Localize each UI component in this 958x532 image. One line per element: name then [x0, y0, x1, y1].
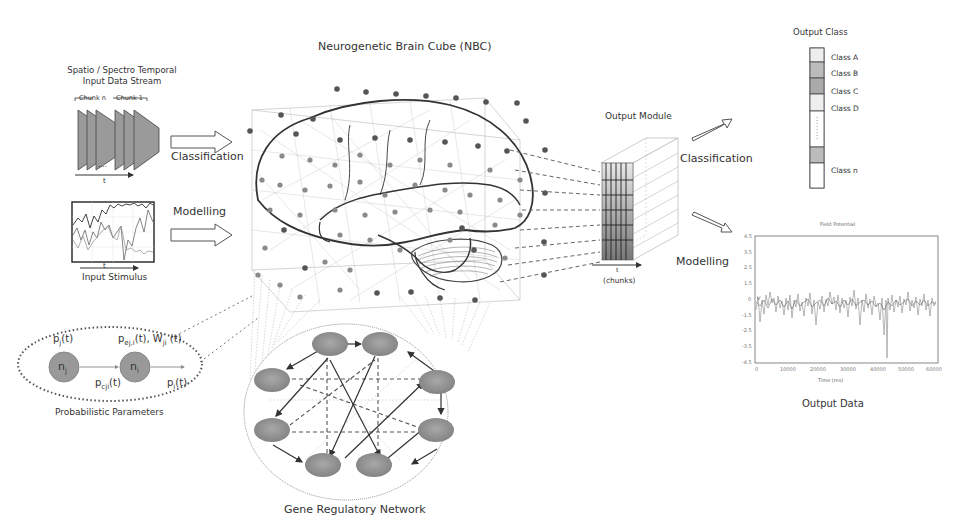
- ytick: 1.5: [744, 280, 752, 286]
- output-data-label: Output Data: [802, 398, 864, 409]
- gene-regulatory-network: [244, 324, 455, 500]
- classification-out-label: Classification: [680, 152, 753, 165]
- modelling-out-label: Modelling: [676, 255, 729, 268]
- class-b-label: Class B: [831, 69, 858, 78]
- ytick: -4.5: [742, 359, 752, 365]
- ytick: 0: [748, 296, 751, 302]
- ytick: -1.5: [742, 312, 752, 318]
- input-time-axis-label: t: [103, 177, 106, 185]
- output-field-potential-plot: [755, 236, 938, 363]
- modelling-in-label: Modelling: [173, 205, 226, 218]
- class-d-label: Class D: [831, 104, 859, 113]
- output-class-bar: [810, 48, 824, 188]
- output-module-label: Output Module: [605, 111, 672, 121]
- ytick: 2.5: [744, 264, 752, 270]
- class-a-label: Class A: [831, 53, 858, 62]
- input-stimulus-label: Input Stimulus: [82, 272, 147, 282]
- xtick: 50000: [898, 366, 914, 372]
- node-j-label: nj: [58, 360, 67, 375]
- pi-label: pi(t): [167, 377, 187, 391]
- classification-in-label: Classification: [171, 150, 244, 163]
- classification-arrow-out: [692, 119, 732, 141]
- node-i-label: ni: [130, 360, 139, 375]
- modelling-arrow-out: [692, 212, 732, 232]
- xtick: 40000: [870, 366, 886, 372]
- chunk-n-label: Chunk n: [79, 94, 106, 102]
- plot-ylabel: V: [757, 295, 760, 301]
- output-time-axis-label: t: [616, 266, 618, 273]
- ytick: 3.5: [744, 249, 752, 255]
- pj-label: pj(t): [53, 333, 73, 347]
- xtick: 0: [755, 366, 758, 372]
- plot-title: Field Potential: [820, 221, 855, 227]
- output-class-title: Output Class: [793, 27, 848, 37]
- stimulus-time-axis-label: t: [103, 262, 106, 270]
- xtick: 30000: [840, 366, 856, 372]
- input-stimulus-plot: [72, 202, 154, 268]
- probabilistic-parameters-label: Probabilistic Parameters: [55, 407, 164, 417]
- pe-w-label: pej,i(t), Wji (t): [118, 333, 182, 347]
- plot-xlabel: Time (ms): [818, 377, 843, 383]
- neuron-detail-ellipse: [18, 296, 258, 401]
- xtick: 10000: [780, 366, 796, 372]
- input-stream-label: Spatio / Spectro Temporal Input Data Str…: [62, 65, 182, 87]
- xtick: 20000: [810, 366, 826, 372]
- modelling-arrow-in: [171, 224, 232, 246]
- ytick: -2.5: [742, 327, 752, 333]
- brain-to-output-links: [500, 150, 600, 282]
- input-data-stream-icon: ....: [75, 98, 159, 175]
- class-c-label: Class C: [831, 87, 858, 96]
- cerebellum: [412, 239, 502, 282]
- output-module-cube: [592, 138, 678, 265]
- chunk-1-label: Chunk 1: [116, 94, 143, 102]
- class-n-label: Class n: [831, 166, 858, 175]
- gene-network-label: Gene Regulatory Network: [284, 503, 426, 516]
- xtick: 60000: [926, 366, 942, 372]
- ytick: 4.5: [744, 233, 752, 239]
- pc-label: pcji(t): [95, 377, 121, 391]
- svg-text:....: ....: [98, 161, 107, 169]
- diagram-title: Neurogenetic Brain Cube (NBC): [318, 40, 491, 53]
- chunks-label: (chunks): [603, 276, 636, 285]
- ytick: -3.5: [742, 343, 752, 349]
